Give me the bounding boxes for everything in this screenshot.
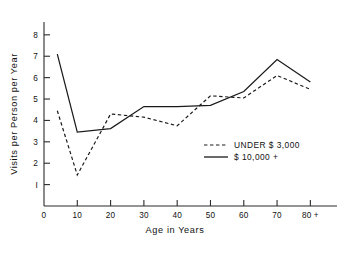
x-tick-label: 10: [73, 211, 83, 220]
x-axis: 01020304050607080 + Age in Years: [42, 200, 337, 235]
x-axis-title: Age in Years: [146, 225, 205, 235]
x-tick-label: 60: [239, 211, 249, 220]
x-tick-label: 30: [139, 211, 149, 220]
y-tick-label: 6: [33, 74, 38, 83]
y-tick-label: I: [36, 181, 38, 190]
x-tick-label: 80 +: [302, 211, 319, 220]
y-tick-label: 2: [33, 159, 38, 168]
legend-label: UNDER $ 3,000: [234, 140, 300, 150]
y-axis-ticks: [44, 35, 50, 185]
legend-item: UNDER $ 3,000: [204, 140, 300, 150]
x-tick-label: 0: [42, 211, 47, 220]
line-chart: I2345678 Visits per Person per Year 0102…: [0, 0, 349, 257]
y-axis-tick-labels: I2345678: [33, 31, 38, 190]
y-tick-label: 8: [33, 31, 38, 40]
y-tick-label: 4: [33, 116, 38, 125]
y-axis: I2345678 Visits per Person per Year: [9, 22, 50, 206]
x-axis-ticks: [77, 200, 310, 206]
legend-label: $ 10,000 +: [234, 152, 278, 162]
x-axis-tick-labels: 01020304050607080 +: [42, 211, 319, 220]
x-tick-label: 20: [106, 211, 116, 220]
y-tick-label: 7: [33, 52, 38, 61]
x-tick-label: 70: [272, 211, 282, 220]
y-axis-title: Visits per Person per Year: [9, 53, 19, 175]
legend-item: $ 10,000 +: [204, 152, 278, 162]
chart-container: I2345678 Visits per Person per Year 0102…: [0, 0, 349, 257]
x-tick-label: 50: [206, 211, 216, 220]
y-tick-label: 5: [33, 95, 38, 104]
y-tick-label: 3: [33, 138, 38, 147]
chart-legend: UNDER $ 3,000$ 10,000 +: [204, 140, 300, 162]
x-tick-label: 40: [172, 211, 182, 220]
